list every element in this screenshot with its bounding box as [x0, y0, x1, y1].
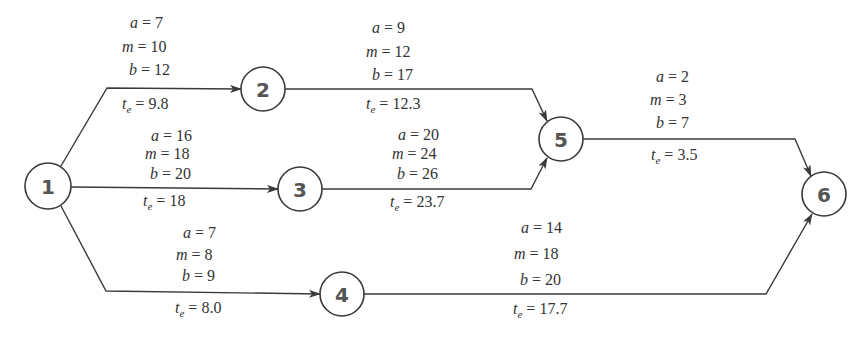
- value-te: 17.7: [539, 300, 567, 317]
- node-1: 1: [25, 163, 71, 209]
- equals: =: [184, 299, 201, 316]
- edge-2-5-b: b=17: [372, 67, 413, 83]
- var-t-sub: e: [126, 103, 131, 115]
- edge-1-3-a: a=16: [151, 128, 192, 144]
- value-m: 3: [679, 91, 687, 108]
- equals: =: [664, 68, 681, 85]
- edge-5-6-te: te=3.5: [651, 147, 697, 163]
- var-t-sub: e: [394, 201, 399, 213]
- edge-3-5-a: a=20: [398, 127, 439, 143]
- edge-4-6-te: te=17.7: [513, 301, 567, 317]
- value-b: 12: [154, 61, 170, 78]
- edge-4-6-m: m=18: [514, 246, 559, 262]
- var-a: a: [183, 224, 191, 241]
- value-te: 12.3: [392, 95, 420, 112]
- var-b: b: [397, 165, 405, 182]
- var-a: a: [372, 19, 380, 36]
- equals: =: [662, 91, 679, 108]
- equals: =: [158, 165, 175, 182]
- equals: =: [188, 246, 205, 263]
- var-a: a: [656, 68, 664, 85]
- node-2: 2: [241, 67, 285, 111]
- equals: =: [526, 245, 543, 262]
- value-a: 2: [681, 68, 689, 85]
- var-b: b: [182, 267, 190, 284]
- equals: =: [137, 61, 154, 78]
- edge-1-4-te: te=8.0: [175, 300, 221, 316]
- equals: =: [405, 165, 422, 182]
- edge-1-2-m: m=10: [122, 39, 167, 55]
- value-te: 8.0: [201, 299, 221, 316]
- var-m: m: [145, 145, 157, 162]
- edge-1-2-te: te=9.8: [122, 96, 168, 112]
- value-te: 9.8: [148, 95, 168, 112]
- var-a: a: [130, 14, 138, 31]
- edge-1-3: [71, 187, 278, 189]
- equals: =: [529, 219, 546, 236]
- value-m: 10: [151, 38, 167, 55]
- var-m: m: [176, 246, 188, 263]
- edge-5-6-a: a=2: [656, 69, 689, 85]
- edge-1-3-te: te=18: [143, 193, 185, 209]
- edge-4-6: [364, 214, 812, 294]
- var-t-sub: e: [179, 307, 184, 319]
- equals: =: [159, 127, 176, 144]
- edge-3-5-b: b=26: [397, 166, 438, 182]
- edge-2-5-te: te=12.3: [366, 96, 420, 112]
- equals: =: [528, 271, 545, 288]
- equals: =: [380, 19, 397, 36]
- node-2-label: 2: [256, 78, 270, 102]
- edge-1-4-a: a=7: [183, 225, 216, 241]
- equals: =: [378, 43, 395, 60]
- node-1-label: 1: [41, 175, 55, 199]
- var-t-sub: e: [147, 200, 152, 212]
- var-b: b: [520, 271, 528, 288]
- node-4-label: 4: [335, 283, 349, 307]
- equals: =: [660, 146, 677, 163]
- edge-1-4-m: m=8: [176, 247, 213, 263]
- value-a: 20: [423, 126, 439, 143]
- value-m: 8: [205, 246, 213, 263]
- edge-1-2-b: b=12: [129, 62, 170, 78]
- equals: =: [380, 66, 397, 83]
- equals: =: [157, 145, 174, 162]
- edge-1-4-b: b=9: [182, 268, 215, 284]
- equals: =: [138, 14, 155, 31]
- value-b: 20: [545, 271, 561, 288]
- node-6: 6: [802, 172, 846, 216]
- edge-3-5-m: m=24: [392, 146, 437, 162]
- edge-2-5-a: a=9: [372, 20, 405, 36]
- var-t-sub: e: [517, 308, 522, 320]
- node-4: 4: [320, 272, 364, 316]
- node-5-label: 5: [554, 128, 568, 152]
- var-m: m: [392, 145, 404, 162]
- equals: =: [190, 267, 207, 284]
- var-a: a: [398, 126, 406, 143]
- node-3-label: 3: [293, 178, 307, 202]
- value-m: 18: [174, 145, 190, 162]
- edge-4-6-b: b=20: [520, 272, 561, 288]
- value-te: 23.7: [416, 193, 444, 210]
- value-a: 16: [176, 127, 192, 144]
- value-m: 12: [395, 43, 411, 60]
- var-b: b: [129, 61, 137, 78]
- value-a: 9: [397, 19, 405, 36]
- var-b: b: [150, 165, 158, 182]
- edge-4-6-a: a=14: [521, 220, 562, 236]
- edge-3-5-te: te=23.7: [390, 194, 444, 210]
- var-b: b: [372, 66, 380, 83]
- value-b: 17: [397, 66, 413, 83]
- equals: =: [134, 38, 151, 55]
- value-b: 26: [422, 165, 438, 182]
- equals: =: [399, 193, 416, 210]
- equals: =: [404, 145, 421, 162]
- var-a: a: [151, 127, 159, 144]
- value-m: 18: [543, 245, 559, 262]
- equals: =: [406, 126, 423, 143]
- value-b: 9: [207, 267, 215, 284]
- value-te: 3.5: [677, 146, 697, 163]
- edge-1-3-m: m=18: [145, 146, 190, 162]
- edge-1-3-b: b=20: [150, 166, 191, 182]
- var-m: m: [514, 245, 526, 262]
- var-a: a: [521, 219, 529, 236]
